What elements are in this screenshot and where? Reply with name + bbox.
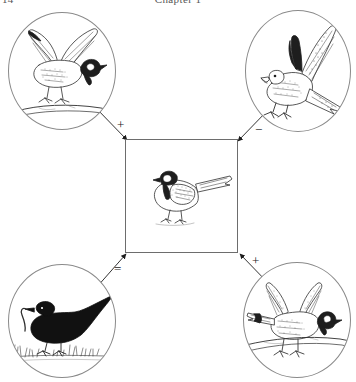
great-tit-focal-individual-drawing bbox=[126, 140, 239, 254]
vignette-top-right bbox=[245, 10, 351, 132]
circle-frame-top-left bbox=[8, 12, 116, 130]
vignette-top-left bbox=[8, 12, 116, 130]
great-tit-wings-spread-on-branch-drawing bbox=[244, 263, 351, 378]
central-box-focal-bird bbox=[125, 139, 238, 253]
great-tit-landing-on-branch-drawing bbox=[9, 13, 116, 130]
plus-sign-top-left: + bbox=[117, 118, 124, 131]
vignette-bottom-left bbox=[8, 264, 116, 378]
circle-frame-bottom-left bbox=[8, 264, 116, 378]
circle-frame-bottom-right bbox=[243, 262, 351, 378]
figure-page: 14 Chapter 1 + − = + bbox=[0, 0, 356, 382]
sparrowhawk-predator-drawing bbox=[246, 11, 351, 132]
blackbird-with-worm-drawing bbox=[9, 265, 116, 378]
vignette-bottom-right bbox=[243, 262, 351, 378]
circle-frame-top-right bbox=[245, 10, 351, 132]
